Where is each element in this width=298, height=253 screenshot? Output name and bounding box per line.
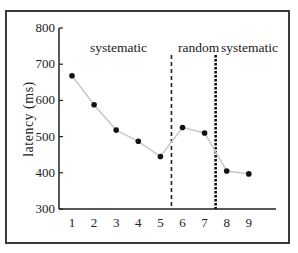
x-tick-label: 2 xyxy=(91,215,98,230)
data-point xyxy=(202,130,208,136)
phase-dividers xyxy=(171,55,215,209)
y-tick-label: 700 xyxy=(36,56,56,71)
data-series xyxy=(69,73,251,177)
x-tick-label: 8 xyxy=(223,215,230,230)
y-tick-label: 400 xyxy=(36,165,56,180)
data-point xyxy=(158,154,164,160)
x-tick-label: 7 xyxy=(201,215,208,230)
region-label-systematic-1: systematic xyxy=(90,40,147,55)
y-tick-label: 800 xyxy=(36,20,56,35)
data-point xyxy=(246,171,252,177)
x-tick-label: 5 xyxy=(157,215,164,230)
x-tick-label: 9 xyxy=(246,215,253,230)
y-axis-title: latency (ms) xyxy=(21,81,37,157)
y-tick-label: 600 xyxy=(36,92,56,107)
data-point xyxy=(69,73,75,79)
data-point xyxy=(136,139,142,145)
y-axis: 800700600500400300 xyxy=(36,20,64,216)
x-tick-label: 1 xyxy=(69,215,76,230)
data-point xyxy=(224,168,230,174)
x-tick-label: 3 xyxy=(113,215,120,230)
region-label-systematic-2: systematic xyxy=(221,40,278,55)
latency-line-chart: 800700600500400300 123456789 systematic … xyxy=(0,0,298,253)
data-point xyxy=(113,127,119,133)
x-tick-label: 4 xyxy=(135,215,142,230)
data-point xyxy=(180,125,186,131)
x-axis: 123456789 xyxy=(59,209,276,230)
region-label-random: random xyxy=(178,40,220,55)
x-tick-label: 6 xyxy=(179,215,186,230)
y-tick-label: 300 xyxy=(36,201,56,216)
y-tick-label: 500 xyxy=(36,129,56,144)
data-point xyxy=(91,102,97,108)
